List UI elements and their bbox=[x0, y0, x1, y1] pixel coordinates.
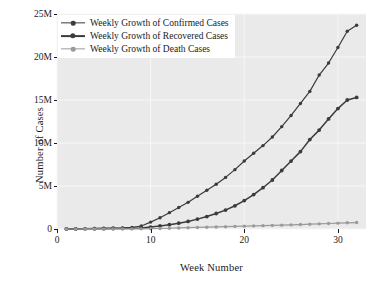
data-point-marker bbox=[149, 227, 152, 230]
data-point-marker bbox=[345, 98, 349, 102]
data-point-marker bbox=[121, 227, 124, 230]
data-point-marker bbox=[317, 73, 320, 76]
data-point-marker bbox=[355, 221, 358, 224]
x-tick-label: 0 bbox=[55, 235, 60, 245]
data-point-marker bbox=[289, 114, 292, 117]
data-point-marker bbox=[186, 220, 190, 224]
data-point-marker bbox=[280, 125, 283, 128]
data-point-marker bbox=[355, 96, 359, 100]
data-point-marker bbox=[327, 117, 331, 121]
data-point-marker bbox=[308, 90, 311, 93]
data-point-marker bbox=[177, 221, 181, 225]
data-point-marker bbox=[205, 225, 208, 228]
data-point-marker bbox=[233, 225, 236, 228]
data-point-marker bbox=[196, 195, 199, 198]
x-tick-mark bbox=[57, 229, 58, 233]
x-tick-mark bbox=[244, 229, 245, 233]
data-point-marker bbox=[280, 169, 284, 173]
data-point-marker bbox=[93, 227, 96, 230]
data-point-marker bbox=[158, 216, 161, 219]
data-point-marker bbox=[355, 23, 358, 26]
data-point-marker bbox=[271, 224, 274, 227]
legend-item-confirmed: Weekly Growth of Confirmed Cases bbox=[60, 17, 229, 29]
data-point-marker bbox=[317, 222, 320, 225]
data-point-marker bbox=[299, 223, 302, 226]
y-tick-mark bbox=[54, 229, 58, 230]
x-axis-label: Week Number bbox=[57, 262, 366, 273]
data-point-marker bbox=[214, 212, 218, 216]
data-point-marker bbox=[252, 193, 256, 197]
data-point-marker bbox=[224, 176, 227, 179]
data-point-marker bbox=[233, 204, 237, 208]
y-axis-label: Number of Cases bbox=[34, 107, 45, 183]
data-point-marker bbox=[280, 223, 283, 226]
legend-label-recovered: Weekly Growth of Recovered Cases bbox=[90, 31, 228, 41]
data-point-marker bbox=[65, 227, 68, 230]
legend-line-marker-death bbox=[60, 44, 86, 55]
data-point-marker bbox=[224, 208, 228, 212]
data-point-marker bbox=[102, 227, 105, 230]
data-point-marker bbox=[205, 215, 209, 219]
data-point-marker bbox=[196, 226, 199, 229]
data-point-marker bbox=[83, 227, 86, 230]
data-point-marker bbox=[177, 206, 180, 209]
data-point-marker bbox=[346, 221, 349, 224]
data-point-marker bbox=[233, 168, 236, 171]
data-point-marker bbox=[130, 227, 133, 230]
data-point-marker bbox=[168, 227, 171, 230]
legend-line-marker-recovered bbox=[60, 31, 86, 42]
data-point-marker bbox=[271, 135, 274, 138]
data-point-marker bbox=[224, 225, 227, 228]
x-tick-label: 10 bbox=[146, 235, 156, 245]
data-point-marker bbox=[336, 221, 339, 224]
data-point-marker bbox=[289, 223, 292, 226]
data-point-marker bbox=[261, 186, 265, 190]
legend-label-confirmed: Weekly Growth of Confirmed Cases bbox=[90, 18, 229, 28]
series-line bbox=[66, 97, 356, 229]
data-point-marker bbox=[299, 102, 302, 105]
data-point-marker bbox=[346, 30, 349, 33]
data-point-marker bbox=[308, 138, 312, 142]
data-point-marker bbox=[186, 201, 189, 204]
y-tick-label: 15M bbox=[34, 95, 52, 105]
data-point-marker bbox=[111, 227, 114, 230]
data-point-marker bbox=[317, 128, 321, 132]
x-tick-label: 30 bbox=[333, 235, 343, 245]
data-point-marker bbox=[196, 217, 200, 221]
data-point-marker bbox=[336, 107, 340, 111]
data-point-marker bbox=[243, 224, 246, 227]
data-point-marker bbox=[186, 226, 189, 229]
legend-item-death: Weekly Growth of Death Cases bbox=[60, 43, 229, 55]
data-point-marker bbox=[149, 220, 152, 223]
data-point-marker bbox=[205, 189, 208, 192]
x-tick-mark bbox=[338, 229, 339, 233]
legend-line-marker-confirmed bbox=[60, 18, 86, 29]
data-point-marker bbox=[74, 227, 77, 230]
data-point-marker bbox=[167, 223, 171, 227]
data-point-marker bbox=[327, 222, 330, 225]
data-point-marker bbox=[214, 183, 217, 186]
chart-legend: Weekly Growth of Confirmed Cases Weekly … bbox=[58, 15, 235, 58]
data-point-marker bbox=[242, 199, 246, 203]
data-point-marker bbox=[327, 61, 330, 64]
legend-label-death: Weekly Growth of Death Cases bbox=[90, 44, 210, 54]
legend-item-recovered: Weekly Growth of Recovered Cases bbox=[60, 30, 229, 42]
y-tick-label: 25M bbox=[34, 9, 52, 19]
data-point-marker bbox=[158, 227, 161, 230]
y-tick-label: 0 bbox=[47, 224, 52, 234]
data-point-marker bbox=[336, 46, 339, 49]
data-point-marker bbox=[261, 224, 264, 227]
data-point-marker bbox=[140, 227, 143, 230]
x-tick-label: 20 bbox=[240, 235, 250, 245]
data-point-marker bbox=[289, 159, 293, 163]
data-point-marker bbox=[177, 226, 180, 229]
chart-figure: 05M10M15M20M25M0102030 Weekly Growth of … bbox=[0, 0, 391, 289]
data-point-marker bbox=[261, 144, 264, 147]
data-point-marker bbox=[252, 224, 255, 227]
data-point-marker bbox=[252, 152, 255, 155]
data-point-marker bbox=[243, 159, 246, 162]
data-point-marker bbox=[308, 222, 311, 225]
data-point-marker bbox=[299, 150, 303, 154]
data-point-marker bbox=[214, 225, 217, 228]
y-tick-label: 20M bbox=[34, 52, 52, 62]
